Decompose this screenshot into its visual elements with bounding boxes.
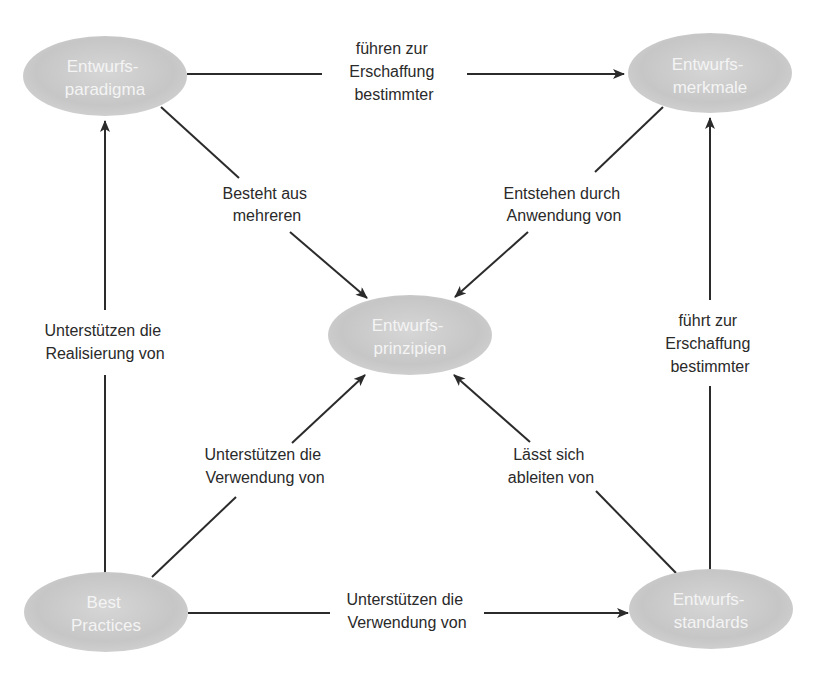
node-entwurfs-standards: Entwurfs- standards — [629, 569, 793, 649]
edge-label: Unterstützen die Verwendung von — [205, 446, 326, 486]
edge-best-practices-to-paradigma: Unterstützen die Realisierung von — [45, 121, 166, 573]
edge-label: Unterstützen die Verwendung von — [347, 591, 468, 631]
edge-label: führt zur Erschaffung bestimmter — [665, 312, 755, 375]
edge-label: führen zur Erschaffung bestimmter — [349, 40, 439, 103]
edge-best-practices-to-prinzipien: Unterstützen die Verwendung von — [152, 375, 365, 577]
edge-label: Unterstützen die Realisierung von — [45, 322, 166, 362]
edge-paradigma-to-merkmale: führen zur Erschaffung bestimmter — [187, 40, 624, 103]
edge-standards-to-merkmale: führt zur Erschaffung bestimmter — [665, 118, 755, 570]
node-entwurfs-prinzipien: Entwurfs- prinzipien — [328, 295, 492, 375]
edge-merkmale-to-prinzipien: Entstehen durch Anwendung von — [455, 107, 663, 297]
edge-label: Besteht aus mehreren — [223, 185, 312, 224]
edge-label: Lässt sich ableiten von — [508, 446, 594, 486]
node-best-practices: Best Practices — [24, 572, 188, 652]
edge-standards-to-prinzipien: Lässt sich ableiten von — [454, 375, 676, 573]
edge-paradigma-to-prinzipien: Besteht aus mehreren — [161, 107, 367, 298]
edge-label: Entstehen durch Anwendung von — [504, 185, 625, 224]
edge-best-practices-to-standards: Unterstützen die Verwendung von — [188, 591, 628, 631]
node-entwurfs-merkmale: Entwurfs- merkmale — [628, 33, 792, 113]
node-entwurfs-paradigma: Entwurfs- paradigma — [23, 36, 187, 116]
concept-diagram: führen zur Erschaffung bestimmter Besteh… — [0, 0, 819, 677]
